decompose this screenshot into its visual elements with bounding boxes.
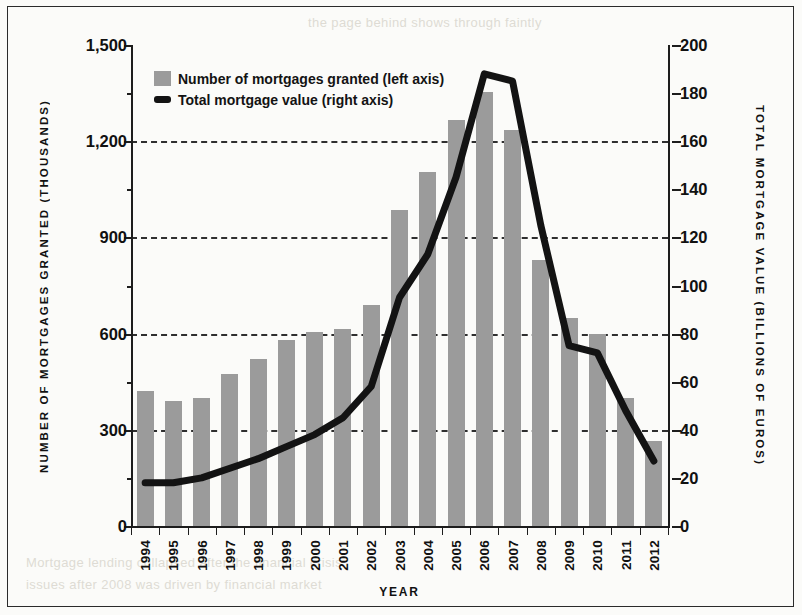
y-tick-left-minor — [127, 189, 133, 191]
x-tick — [498, 528, 499, 535]
y-tick-label-right: 100 — [680, 276, 708, 295]
x-tick — [640, 528, 641, 535]
y-tick-left-minor — [127, 286, 133, 288]
x-tick — [272, 528, 273, 535]
y-axis-left-title: NUMBER OF MORTGAGES GRANTED (THOUSANDS) — [34, 45, 54, 526]
x-tick-label-2007: 2007 — [506, 540, 521, 571]
y-tick-label-right: 0 — [680, 517, 689, 536]
y-tick-label-left: 0 — [118, 517, 127, 536]
x-tick-label-2004: 2004 — [421, 540, 436, 571]
y-tick-left-minor — [127, 478, 133, 480]
x-tick — [527, 528, 528, 535]
y-tick-label-left: 900 — [99, 228, 127, 247]
legend-item-line: Total mortgage value (right axis) — [154, 89, 444, 110]
y-tick-label-right: 180 — [680, 84, 708, 103]
y-tick-label-left: 1,500 — [86, 36, 127, 55]
figure-page: the page behind shows through faintly Mo… — [0, 0, 802, 615]
x-tick-label-2011: 2011 — [619, 540, 634, 570]
x-tick — [470, 528, 471, 535]
x-tick — [414, 528, 415, 535]
x-tick-label-2002: 2002 — [364, 540, 379, 571]
ghost-text-top: the page behind shows through faintly — [308, 15, 542, 30]
y-axis-right: 020406080100120140160180200 — [668, 45, 670, 526]
y-tick-label-left: 1,200 — [86, 132, 127, 151]
x-tick-label-2008: 2008 — [534, 540, 549, 571]
x-tick — [244, 528, 245, 535]
x-tick — [329, 528, 330, 535]
x-tick-label-1994: 1994 — [138, 540, 153, 571]
y-axis-right-title-text: TOTAL MORTGAGE VALUE (BILLIONS OF EUROS) — [754, 105, 766, 466]
x-tick — [301, 528, 302, 535]
x-tick-label-1996: 1996 — [195, 540, 210, 571]
x-tick — [611, 528, 612, 535]
x-axis: 1994199519961997199819992000200120022003… — [131, 526, 670, 528]
chart-legend: Number of mortgages granted (left axis) … — [154, 68, 444, 110]
x-tick — [357, 528, 358, 535]
legend-label-line: Total mortgage value (right axis) — [178, 92, 393, 108]
x-tick-label-2001: 2001 — [336, 540, 351, 571]
y-tick-label-right: 20 — [680, 468, 698, 487]
y-tick-label-right: 200 — [680, 36, 708, 55]
line-swatch-icon — [154, 96, 171, 103]
legend-label-bars: Number of mortgages granted (left axis) — [178, 71, 444, 87]
x-tick-label-1995: 1995 — [166, 540, 181, 571]
x-tick-label-2012: 2012 — [647, 540, 662, 571]
y-tick-label-right: 140 — [680, 180, 708, 199]
ghost-text-bottom-1: Mortgage lending collapsed after the fin… — [26, 555, 342, 570]
x-tick-label-2010: 2010 — [590, 540, 605, 571]
figure-frame: the page behind shows through faintly Mo… — [7, 6, 794, 607]
x-tick-label-2003: 2003 — [393, 540, 408, 571]
legend-item-bars: Number of mortgages granted (left axis) — [154, 68, 444, 89]
x-tick — [216, 528, 217, 535]
y-axis-left-title-text: NUMBER OF MORTGAGES GRANTED (THOUSANDS) — [38, 99, 50, 473]
y-axis-left: 03006009001,2001,500 — [131, 45, 133, 526]
x-tick-label-2009: 2009 — [562, 540, 577, 571]
x-tick-label-1998: 1998 — [251, 540, 266, 571]
x-axis-title: YEAR — [131, 585, 668, 599]
y-tick-label-right: 60 — [680, 372, 698, 391]
line-series — [131, 45, 668, 526]
y-tick-label-left: 600 — [99, 324, 127, 343]
y-tick-label-right: 40 — [680, 420, 698, 439]
x-tick — [385, 528, 386, 535]
x-tick — [668, 528, 669, 535]
bar-swatch-icon — [154, 71, 171, 86]
x-tick — [159, 528, 160, 535]
y-tick-left-minor — [127, 382, 133, 384]
y-axis-right-title: TOTAL MORTGAGE VALUE (BILLIONS OF EUROS) — [750, 45, 770, 526]
y-tick-label-right: 160 — [680, 132, 708, 151]
x-tick-label-2005: 2005 — [449, 540, 464, 571]
y-tick-label-right: 120 — [680, 228, 708, 247]
x-tick — [188, 528, 189, 535]
x-tick-label-1997: 1997 — [223, 540, 238, 571]
y-tick-label-right: 80 — [680, 324, 698, 343]
x-tick-label-1999: 1999 — [279, 540, 294, 571]
x-tick — [442, 528, 443, 535]
y-tick-label-left: 300 — [99, 420, 127, 439]
y-tick-left-minor — [127, 93, 133, 95]
x-tick — [555, 528, 556, 535]
x-tick-label-2000: 2000 — [308, 540, 323, 571]
x-tick-label-2006: 2006 — [477, 540, 492, 571]
plot-area — [131, 45, 668, 526]
x-tick — [131, 528, 132, 535]
x-tick — [583, 528, 584, 535]
